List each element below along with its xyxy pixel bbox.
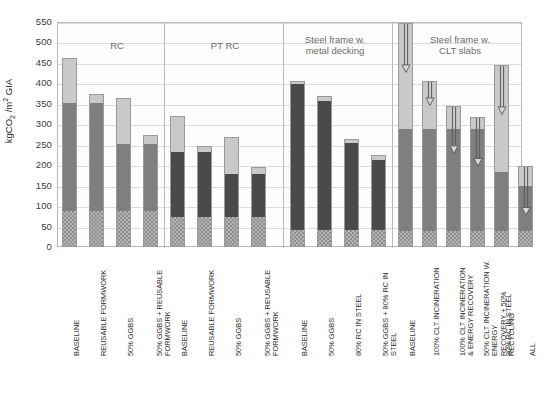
bar: [290, 81, 305, 247]
bar: [344, 139, 359, 247]
x-tick-label: 50% GGBS: [328, 252, 336, 356]
carbon-emissions-bar-chart: 550500450400350300250200150100500 kgCO2 …: [0, 0, 547, 417]
gridline: [58, 64, 521, 65]
x-tick-label: BASELINE: [301, 252, 309, 356]
group-label-pt-rc: PT RC: [180, 40, 270, 51]
bar: [494, 65, 509, 247]
gridline: [58, 23, 521, 24]
bar-outline: [317, 96, 332, 247]
x-tick-label: BASELINE: [409, 252, 417, 356]
x-tick-label: REUSABLE FORMWORK: [208, 252, 216, 356]
y-tick-label: 550: [6, 16, 52, 27]
bar-outline: [518, 166, 533, 247]
bar: [62, 58, 77, 247]
x-tick-label: 50% GGBS + REUSABLE FORMWORK: [264, 252, 281, 356]
x-tick-label: 50% GGBS + 80% RC IN STEEL: [382, 252, 399, 356]
bar: [197, 146, 212, 247]
x-tick-label: 80% RC IN STEEL: [355, 252, 363, 356]
bar: [89, 94, 104, 247]
bar-outline: [446, 106, 461, 247]
y-tick-label: 0: [6, 241, 52, 252]
bar-outline: [197, 146, 212, 247]
x-tick-label: 100% CLT INCINERATION & ENERGY RECOVERY: [459, 252, 476, 356]
bar-outline: [62, 58, 77, 247]
x-tick-label: 50% GGBS: [127, 252, 135, 356]
x-tick-label: ALL: [529, 252, 537, 356]
group-label-rc: RC: [72, 40, 162, 51]
bar: [143, 135, 158, 247]
bar: [422, 81, 437, 247]
group-divider: [392, 23, 393, 248]
x-tick-label: 50% GGBS + REUSABLE FORMWORK: [156, 252, 173, 356]
bar-outline: [371, 155, 386, 247]
y-axis-title: kgCO2 /m2 GIA: [2, 36, 16, 186]
bar-outline: [422, 81, 437, 247]
bar-outline: [224, 137, 239, 247]
x-tick-label: BASELINE: [181, 252, 189, 356]
x-tick-label: 100% CLT INCINERATION: [433, 252, 441, 356]
group-label-steel-metal-decking: Steel frame w. metal decking: [288, 34, 382, 56]
group-label-steel-clt-slabs: Steel frame w. CLT slabs: [410, 34, 510, 56]
bar-outline: [251, 167, 266, 247]
bar-outline: [344, 139, 359, 247]
bar: [251, 167, 266, 247]
bar: [170, 116, 185, 247]
bar-outline: [494, 65, 509, 247]
bar-outline: [89, 94, 104, 247]
bar: [317, 96, 332, 247]
x-tick-label: BASELINE: [73, 252, 81, 356]
y-tick-label: 100: [6, 200, 52, 211]
group-divider: [283, 23, 284, 248]
x-tick-label: 80% RC IN STEEL: [505, 252, 513, 356]
bar: [470, 117, 485, 247]
bar-outline: [170, 116, 185, 247]
bar-outline: [470, 117, 485, 247]
bar-outline: [116, 98, 131, 247]
bar: [518, 166, 533, 247]
bar: [446, 106, 461, 247]
group-divider: [164, 23, 165, 248]
bar: [224, 137, 239, 247]
bar: [398, 23, 413, 247]
bar-outline: [398, 23, 413, 247]
bar-outline: [143, 135, 158, 247]
y-tick-label: 50: [6, 221, 52, 232]
x-tick-label: REUSABLE FORMWORK: [100, 252, 108, 356]
x-tick-label: 50% GGBS: [235, 252, 243, 356]
bar: [371, 155, 386, 247]
bar: [116, 98, 131, 247]
bar-outline: [290, 81, 305, 247]
